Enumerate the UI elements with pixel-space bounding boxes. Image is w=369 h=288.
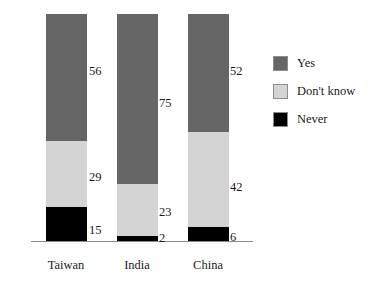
bar-segment-india-dontknow[interactable]	[117, 184, 158, 236]
bar-segment-taiwan-never[interactable]	[46, 207, 87, 241]
bar-segment-india-never[interactable]	[117, 236, 158, 241]
category-label-taiwan: Taiwan	[48, 258, 85, 273]
value-label-china-yes: 52	[230, 65, 243, 78]
bar-segment-india-yes[interactable]	[117, 14, 158, 184]
legend-swatch-yes-icon	[273, 56, 288, 71]
category-label-india: India	[124, 258, 150, 273]
bar-segment-taiwan-dontknow[interactable]	[46, 141, 87, 207]
legend: Yes Don't know Never	[273, 52, 365, 136]
category-label-china: China	[193, 258, 223, 273]
legend-swatch-never-icon	[273, 112, 288, 127]
stacked-bar-chart: 56 29 15 Taiwan 75 23 2 India 52 42 6 Ch…	[0, 0, 369, 288]
legend-item-yes[interactable]: Yes	[273, 52, 365, 75]
legend-item-never[interactable]: Never	[273, 108, 365, 131]
bar-india[interactable]	[117, 14, 158, 241]
value-label-taiwan-dontknow: 29	[89, 171, 102, 184]
bar-segment-china-yes[interactable]	[188, 14, 229, 132]
x-axis-baseline	[31, 241, 253, 242]
value-label-india-never: 2	[159, 232, 165, 245]
value-label-taiwan-yes: 56	[89, 65, 102, 78]
bar-segment-taiwan-yes[interactable]	[46, 14, 87, 141]
legend-label-yes: Yes	[297, 57, 315, 70]
legend-swatch-dontknow-icon	[273, 84, 288, 99]
value-label-china-never: 6	[230, 231, 236, 244]
legend-label-never: Never	[297, 113, 328, 126]
value-label-india-yes: 75	[159, 97, 172, 110]
value-label-china-dontknow: 42	[230, 181, 243, 194]
value-label-taiwan-never: 15	[89, 224, 102, 237]
bar-segment-china-never[interactable]	[188, 227, 229, 241]
plot-area: 56 29 15 Taiwan 75 23 2 India 52 42 6 Ch…	[0, 0, 265, 288]
bar-china[interactable]	[188, 14, 229, 241]
legend-item-dontknow[interactable]: Don't know	[273, 80, 365, 103]
bar-segment-china-dontknow[interactable]	[188, 132, 229, 227]
legend-label-dontknow: Don't know	[297, 85, 355, 98]
value-label-india-dontknow: 23	[159, 206, 172, 219]
bar-taiwan[interactable]	[46, 14, 87, 241]
